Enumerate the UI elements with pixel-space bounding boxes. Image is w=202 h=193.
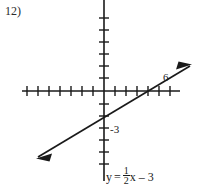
- fraction-numerator: 1: [123, 166, 130, 175]
- equation-constant: – 3: [139, 171, 154, 183]
- equation-variable: x: [130, 171, 136, 183]
- coordinate-graph: [0, 0, 202, 193]
- equation-equals-sign: =: [114, 171, 121, 183]
- x-intercept-label: 6: [163, 72, 169, 83]
- worksheet-problem-figure: 12): [0, 0, 202, 193]
- y-intercept-label: -3: [110, 124, 119, 135]
- equation-label: y = 1 2 x – 3: [106, 167, 154, 186]
- equation-lhs: y: [106, 171, 112, 183]
- equation-fraction: 1 2: [123, 166, 130, 185]
- fraction-denominator: 2: [123, 176, 130, 185]
